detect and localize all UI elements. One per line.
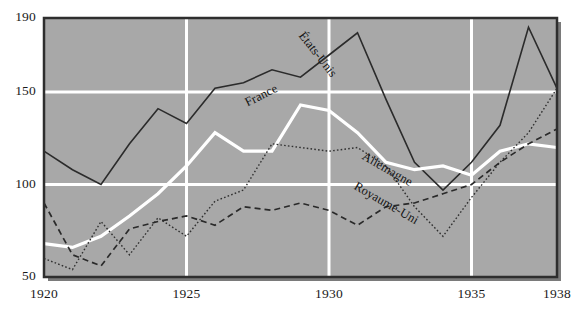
y-axis-tick-50: 50 <box>0 268 36 284</box>
line-chart: 5010015019019201925193019351938États-Uni… <box>0 0 587 313</box>
y-axis-tick-150: 150 <box>0 83 36 99</box>
x-axis-tick-1930: 1930 <box>299 286 359 302</box>
x-axis-tick-1925: 1925 <box>157 286 217 302</box>
y-axis-tick-100: 100 <box>0 176 36 192</box>
x-axis-tick-1935: 1935 <box>442 286 502 302</box>
chart-canvas <box>0 0 587 313</box>
y-axis-tick-190: 190 <box>0 9 36 25</box>
x-axis-tick-1938: 1938 <box>527 286 587 302</box>
x-axis-tick-1920: 1920 <box>14 286 74 302</box>
